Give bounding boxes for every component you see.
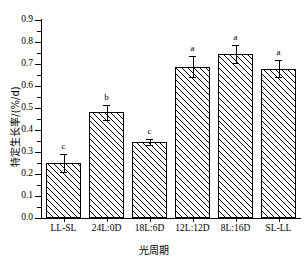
significance-letter-8L:16D: a: [226, 33, 246, 42]
y-tick-label: 0.8: [0, 37, 33, 46]
y-tick-mark: [35, 218, 41, 219]
error-cap-lower: [275, 77, 282, 78]
y-axis-title: 特定生长率/(%/d): [7, 57, 22, 197]
bar-18L:6D: [132, 142, 166, 218]
bar-24L:0D: [89, 112, 123, 218]
y-tick-mark: [35, 174, 41, 175]
y-tick-mark: [35, 64, 41, 65]
significance-letter-SL-LL: a: [269, 48, 289, 57]
error-bar-8L:16D: [236, 45, 237, 63]
y-tick-mark: [35, 108, 41, 109]
y-tick-minor: [37, 97, 41, 98]
bar-12L:12D: [175, 67, 209, 218]
y-tick-minor: [37, 207, 41, 208]
error-cap-lower: [146, 145, 153, 146]
y-tick-label: 0.9: [0, 15, 33, 24]
y-tick-mark: [35, 86, 41, 87]
error-bar-12L:12D: [193, 56, 194, 77]
error-cap-upper: [232, 45, 239, 46]
y-tick-minor: [37, 185, 41, 186]
error-cap-upper: [275, 60, 282, 61]
error-cap-upper: [146, 139, 153, 140]
y-tick-mark: [35, 20, 41, 21]
chart-figure: 0.00.10.20.30.40.50.60.70.80.9 LL-SL24L:…: [0, 0, 307, 271]
x-axis-title: 光周期: [0, 242, 307, 257]
y-tick-minor: [37, 31, 41, 32]
error-cap-upper: [103, 105, 110, 106]
error-cap-upper: [60, 154, 67, 155]
x-tick-label-SL-LL: SL-LL: [249, 223, 308, 234]
bar-SL-LL: [261, 69, 295, 218]
y-tick-minor: [37, 119, 41, 120]
significance-letter-24L:0D: b: [97, 93, 117, 102]
x-tick-mark: [193, 218, 194, 222]
error-cap-lower: [103, 120, 110, 121]
significance-letter-LL-SL: c: [54, 142, 74, 151]
error-bar-24L:0D: [107, 105, 108, 120]
error-cap-lower: [189, 77, 196, 78]
y-tick-label: 0.0: [0, 213, 33, 222]
bar-8L:16D: [218, 54, 252, 218]
plot-area: cbcaaa: [42, 20, 300, 218]
x-tick-mark: [150, 218, 151, 222]
error-cap-lower: [232, 63, 239, 64]
x-tick-mark: [236, 218, 237, 222]
significance-letter-18L:6D: c: [140, 127, 160, 136]
significance-letter-12L:12D: a: [183, 44, 203, 53]
y-tick-minor: [37, 141, 41, 142]
x-axis-line: [41, 218, 301, 219]
x-tick-mark: [64, 218, 65, 222]
error-cap-upper: [189, 56, 196, 57]
y-tick-minor: [37, 163, 41, 164]
y-tick-minor: [37, 53, 41, 54]
error-cap-lower: [60, 172, 67, 173]
x-tick-mark: [107, 218, 108, 222]
y-tick-mark: [35, 196, 41, 197]
x-tick-mark: [279, 218, 280, 222]
error-bar-LL-SL: [64, 154, 65, 172]
error-bar-SL-LL: [279, 60, 280, 77]
y-tick-minor: [37, 75, 41, 76]
y-tick-mark: [35, 152, 41, 153]
y-tick-mark: [35, 130, 41, 131]
y-tick-mark: [35, 42, 41, 43]
